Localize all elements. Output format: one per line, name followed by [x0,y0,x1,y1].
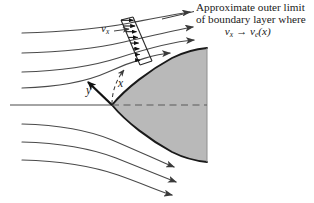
vx-leader-line [114,29,129,31]
vx-label-sub: x [106,27,109,36]
boundary-layer-callout-text: Approximate outer limit of boundary laye… [196,1,306,40]
callout-leader-line [162,12,194,20]
callout-line-1: Approximate outer limit [196,1,306,13]
callout-ve-arg: (x) [258,25,270,37]
streamline-lower-3 [22,160,172,195]
callout-arrow-glyph: → [236,25,247,37]
x-axis-label: x [118,77,123,89]
y-axis-arrow [88,82,112,105]
callout-vx-sub: x [230,30,233,39]
y-axis-label: y [86,84,91,96]
profile-cap-top [121,17,133,20]
boundary-layer-figure: Approximate outer limit of boundary laye… [0,0,314,203]
callout-line-2: of boundary layer where [196,13,306,25]
streamline-lower-2 [22,142,176,182]
profile-cap-bottom [140,61,152,65]
velocity-profile-label: vx [101,23,109,36]
callout-line-3: vx → ve(x) [196,25,306,39]
